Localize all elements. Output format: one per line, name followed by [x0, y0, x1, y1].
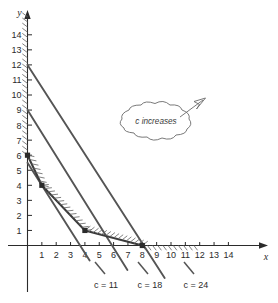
hatch-y-axis [22, 136, 27, 140]
hatch-y-axis [22, 33, 27, 37]
y-tick-label: 3 [16, 196, 21, 206]
x-tick-label: 9 [154, 250, 159, 260]
hatch-y-axis [22, 28, 27, 32]
y-tick-label: 6 [16, 151, 21, 161]
hatch-x-axis [163, 246, 167, 251]
hatch-y-axis [22, 100, 27, 104]
y-tick-label: 10 [11, 90, 21, 100]
hatch-y-axis [22, 121, 27, 125]
y-tick-label: 7 [16, 136, 21, 146]
y-tick-label: 2 [16, 211, 21, 221]
hatch-constraint [114, 234, 119, 238]
label-leader-line [184, 262, 194, 274]
hatch-y-axis [22, 23, 27, 27]
label-leader-line [138, 262, 148, 274]
hatch-y-axis [22, 146, 27, 150]
callout-text: c increases [135, 117, 176, 126]
hatch-y-axis [22, 90, 27, 94]
graph-canvas: xy12345678910111213141234567891011121314… [0, 0, 278, 303]
hatch-constraint [97, 229, 102, 233]
x-tick-label: 11 [181, 250, 190, 260]
hatch-y-axis [22, 49, 27, 53]
y-tick-label: 11 [12, 75, 21, 85]
x-tick-label: 7 [125, 250, 130, 260]
hatch-constraint [118, 235, 123, 239]
vertex-marker [82, 228, 87, 233]
y-tick-label: 14 [11, 30, 21, 40]
vertex-marker [25, 153, 30, 158]
callout: c increases [120, 98, 205, 140]
x-tick-label: 5 [97, 250, 102, 260]
x-tick-label: 12 [195, 250, 205, 260]
hatch-constraint [122, 236, 127, 240]
hatch-constraint [134, 239, 139, 243]
hatch-y-axis [22, 131, 27, 135]
hatch-constraint [126, 237, 131, 241]
x-tick-label: 13 [209, 250, 219, 260]
y-tick-label: 5 [16, 166, 21, 176]
x-tick-label: 1 [39, 250, 44, 260]
y-axis-label: y [16, 7, 22, 18]
vertex-marker [140, 243, 145, 248]
x-tick-label: 14 [223, 250, 233, 260]
hatch-y-axis [22, 105, 27, 109]
hatch-constraint [54, 197, 61, 198]
objective-label-c24: c = 24 [184, 280, 209, 290]
y-tick-label: 1 [16, 226, 21, 236]
hatch-y-axis [22, 44, 27, 48]
hatch-x-axis [147, 246, 151, 251]
hatch-y-axis [22, 95, 27, 99]
y-tick-label: 9 [16, 105, 21, 115]
objective-line-labels: c = 11c = 18c = 24 [94, 262, 208, 290]
hatch-constraint [51, 194, 58, 195]
x-axis-label: x [263, 251, 269, 262]
x-tick-label: 8 [140, 250, 145, 260]
hatch-constraint [57, 201, 64, 202]
hatch-constraint [130, 238, 135, 242]
hatch-constraint [48, 191, 55, 192]
objective-label-c11: c = 11 [94, 280, 118, 290]
x-tick-label: 10 [166, 250, 176, 260]
hatch-constraint [82, 226, 89, 227]
hatch-y-axis [22, 80, 27, 84]
axis-ticks: 12345678910111213141234567891011121314 [11, 30, 233, 259]
hatch-constraint [93, 228, 98, 232]
hatch-y-axis [22, 54, 27, 58]
label-leader-line [95, 262, 105, 274]
hatch-y-axis [22, 110, 27, 114]
hatch-y-axis [22, 69, 27, 73]
hatch-y-axis [22, 115, 27, 119]
hatch-constraint [89, 227, 94, 231]
hatch-constraint [73, 217, 80, 218]
hatch-y-axis [22, 85, 27, 89]
y-tick-label: 12 [11, 60, 21, 70]
hatch-constraint [60, 204, 67, 205]
hatch-constraint [76, 220, 83, 221]
x-tick-label: 2 [54, 250, 59, 260]
y-tick-label: 4 [16, 181, 21, 191]
hatch-constraint [79, 223, 86, 224]
hatch-y-axis [22, 126, 27, 130]
y-axis-arrowhead [24, 10, 30, 19]
hatch-y-axis [22, 59, 27, 63]
hatch-constraint [70, 214, 77, 215]
lp-graph-figure: xy12345678910111213141234567891011121314… [0, 0, 278, 303]
y-tick-label: 8 [16, 121, 21, 131]
hatch-y-axis [22, 38, 27, 42]
hatch-y-axis [22, 141, 27, 145]
callout-arrowhead [194, 98, 206, 109]
callout-arrow-shaft [180, 100, 203, 117]
vertex-marker [39, 183, 44, 188]
y-tick-label: 13 [11, 45, 21, 55]
hatch-y-axis [22, 74, 27, 78]
hatch-constraint [66, 210, 73, 211]
hatch-constraint [63, 207, 70, 208]
hatch-constraint [105, 231, 110, 235]
x-tick-label: 3 [68, 250, 73, 260]
hatch-constraint [110, 233, 115, 237]
hatch-constraint [45, 188, 52, 189]
x-axis-arrowhead [259, 242, 268, 248]
objective-label-c18: c = 18 [138, 280, 163, 290]
